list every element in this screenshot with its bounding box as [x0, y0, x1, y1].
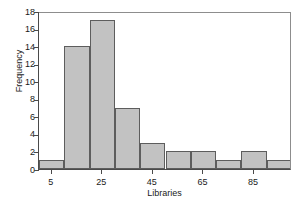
y-tick-mark [34, 117, 39, 118]
bar-series [39, 13, 290, 169]
y-tick-label: 6 [16, 112, 35, 123]
y-tick-mark [34, 170, 39, 171]
x-tick-mark [51, 170, 52, 174]
y-tick-label: 4 [16, 129, 35, 140]
histogram-bar [39, 160, 64, 169]
x-tick-mark [101, 170, 102, 174]
y-tick-label: 12 [16, 59, 35, 70]
histogram-bar [267, 160, 291, 169]
histogram-bar [140, 143, 165, 169]
y-tick-mark [34, 152, 39, 153]
y-tick-mark [34, 12, 39, 13]
histogram-bar [115, 108, 140, 169]
y-tick-label: 16 [16, 24, 35, 35]
y-axis-tick-labels: 024681012141618 [16, 0, 35, 201]
histogram-figure: Frequency 024681012141618 525456585 Libr… [0, 0, 296, 201]
histogram-bar [64, 46, 89, 169]
y-tick-label: 0 [16, 165, 35, 176]
plot-area [38, 12, 291, 170]
y-tick-label: 18 [16, 7, 35, 18]
y-tick-mark [34, 30, 39, 31]
histogram-bar [191, 151, 216, 169]
y-tick-label: 14 [16, 42, 35, 53]
histogram-bar [166, 151, 191, 169]
y-tick-mark [34, 47, 39, 48]
histogram-bar [90, 20, 115, 169]
y-tick-mark [34, 100, 39, 101]
histogram-bar [241, 151, 266, 169]
histogram-bar [216, 160, 241, 169]
y-tick-mark [34, 135, 39, 136]
y-tick-label: 10 [16, 77, 35, 88]
y-tick-mark [34, 82, 39, 83]
y-tick-label: 8 [16, 94, 35, 105]
x-tick-mark [152, 170, 153, 174]
x-axis-label: Libraries [38, 187, 291, 200]
y-tick-mark [34, 65, 39, 66]
x-tick-mark [202, 170, 203, 174]
y-tick-label: 2 [16, 147, 35, 158]
x-tick-mark [253, 170, 254, 174]
